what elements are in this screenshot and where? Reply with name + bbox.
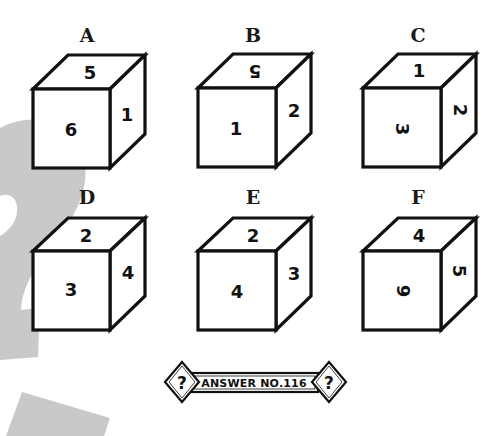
cube-e: E 2 4 3 — [198, 186, 311, 330]
right-face-number: 2 — [450, 104, 471, 117]
cube-a: A 5 6 1 — [33, 24, 145, 168]
cube-c: C 1 3 2 — [363, 24, 476, 167]
front-face-number: 1 — [230, 118, 243, 139]
right-face-number: 4 — [122, 262, 135, 283]
right-face-number: 5 — [449, 265, 470, 278]
answer-badge: ANSWER NO.116 ? ? — [165, 362, 346, 402]
top-face-number: 2 — [247, 225, 260, 246]
cube-label: B — [245, 24, 261, 46]
cube-b: B 5 1 2 — [198, 24, 311, 167]
puzzle-canvas: A 5 6 1 B 5 1 2 C 1 3 2 D 2 3 4 E — [0, 0, 498, 436]
right-face-number: 3 — [288, 263, 301, 284]
svg-text:?: ? — [177, 373, 187, 393]
top-face-number: 5 — [84, 62, 97, 83]
front-face-number: 6 — [65, 119, 78, 140]
top-face-number: 2 — [80, 225, 93, 246]
cube-label: C — [410, 24, 425, 46]
right-face-number: 2 — [288, 100, 301, 121]
front-face-number: 3 — [392, 123, 413, 136]
left-question-diamond-icon: ? — [165, 362, 199, 402]
front-face-number: 4 — [231, 281, 244, 302]
top-face-number: 5 — [249, 61, 262, 82]
front-face-number: 3 — [65, 279, 78, 300]
cube-label: D — [79, 186, 95, 208]
cube-label: E — [246, 186, 260, 208]
front-face-number: 6 — [393, 285, 414, 298]
right-face-number: 1 — [121, 104, 134, 125]
cube-f: F 4 6 5 — [363, 186, 476, 330]
svg-text:?: ? — [324, 373, 334, 393]
cube-label: F — [411, 186, 425, 208]
right-question-diamond-icon: ? — [312, 362, 346, 402]
top-face-number: 4 — [413, 225, 426, 246]
cube-label: A — [79, 24, 95, 46]
top-face-number: 1 — [413, 60, 426, 81]
answer-number-text: ANSWER NO.116 — [201, 377, 307, 390]
